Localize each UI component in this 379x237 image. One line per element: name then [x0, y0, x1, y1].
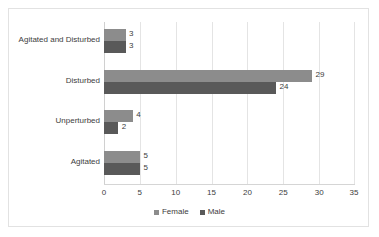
legend-label-male: Male [208, 207, 225, 217]
bar-group-disturbed: 29 24 [104, 63, 355, 104]
bar-group-agitated-and-disturbed: 3 3 [104, 22, 355, 63]
bar-male-agitated-and-disturbed[interactable] [104, 41, 126, 53]
xtick-label-0: 0 [102, 187, 106, 198]
category-label-agitated-and-disturbed: Agitated and Disturbed [2, 35, 100, 45]
category-label-disturbed: Disturbed [2, 76, 100, 86]
legend-swatch-female-icon [154, 210, 159, 215]
bar-label-female-unperturbed: 4 [136, 110, 140, 120]
xtick-label-20: 20 [243, 187, 252, 198]
bar-label-male-agitated: 5 [143, 163, 147, 173]
bar-label-female-agitated-and-disturbed: 3 [129, 29, 133, 39]
bar-label-female-agitated: 5 [143, 151, 147, 161]
xtick-label-35: 35 [350, 187, 359, 198]
bar-female-agitated[interactable] [104, 151, 140, 163]
bar-male-agitated[interactable] [104, 163, 140, 175]
bar-label-male-unperturbed: 2 [122, 122, 126, 132]
bar-female-disturbed[interactable] [104, 70, 312, 82]
bar-label-male-agitated-and-disturbed: 3 [129, 41, 133, 51]
bar-label-female-disturbed: 29 [316, 70, 325, 80]
legend-swatch-male-icon [200, 210, 205, 215]
bar-female-agitated-and-disturbed[interactable] [104, 29, 126, 41]
bar-female-unperturbed[interactable] [104, 110, 133, 122]
bar-male-unperturbed[interactable] [104, 122, 118, 134]
plot-area: 3 3 29 24 4 2 5 5 [104, 22, 355, 184]
category-label-unperturbed: Unperturbed [2, 116, 100, 126]
x-axis-line [104, 184, 355, 185]
category-label-agitated: Agitated [2, 157, 100, 167]
legend-item-female[interactable]: Female [154, 207, 189, 217]
legend-label-female: Female [162, 207, 189, 217]
legend-item-male[interactable]: Male [200, 207, 225, 217]
xtick-label-15: 15 [207, 187, 216, 198]
xtick-label-10: 10 [171, 187, 180, 198]
xtick-label-30: 30 [315, 187, 324, 198]
chart-legend: Female Male [0, 207, 379, 217]
bar-chart: 3 3 29 24 4 2 5 5 Agitated and Disturb [0, 0, 379, 237]
bar-group-agitated: 5 5 [104, 144, 355, 185]
bar-group-unperturbed: 4 2 [104, 103, 355, 144]
xtick-label-5: 5 [138, 187, 142, 198]
x-axis-tick-labels: 0 5 10 15 20 25 30 35 [104, 187, 355, 201]
xtick-label-25: 25 [279, 187, 288, 198]
bar-male-disturbed[interactable] [104, 82, 276, 94]
bar-label-male-disturbed: 24 [280, 82, 289, 92]
category-axis-labels: Agitated and Disturbed Disturbed Unpertu… [0, 22, 100, 184]
